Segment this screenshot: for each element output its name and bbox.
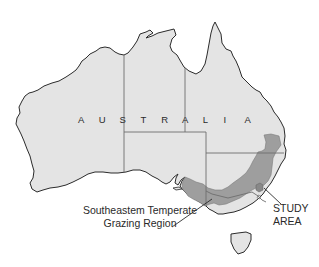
grazing-region-label: Southeastem Temperate Grazing Region bbox=[75, 204, 205, 230]
study-area-label: STUDY AREA bbox=[273, 202, 309, 228]
tasmania bbox=[231, 232, 251, 254]
country-letter: A bbox=[182, 114, 203, 125]
grazing-region-label-line1: Southeastem Temperate bbox=[75, 204, 205, 217]
country-letter: U bbox=[99, 114, 120, 125]
country-letter: I bbox=[224, 114, 245, 125]
country-letter: R bbox=[161, 114, 182, 125]
country-letter: T bbox=[140, 114, 161, 125]
country-letter: A bbox=[78, 114, 99, 125]
study-area-label-line2: AREA bbox=[273, 215, 309, 228]
study-area-label-line1: STUDY bbox=[273, 202, 309, 215]
country-letter: L bbox=[203, 114, 224, 125]
grazing-region-label-line2: Grazing Region bbox=[75, 217, 205, 230]
country-letter: A bbox=[244, 114, 265, 125]
country-label: AUSTRALIA bbox=[78, 114, 265, 125]
country-letter: S bbox=[120, 114, 141, 125]
study-area bbox=[256, 183, 263, 192]
